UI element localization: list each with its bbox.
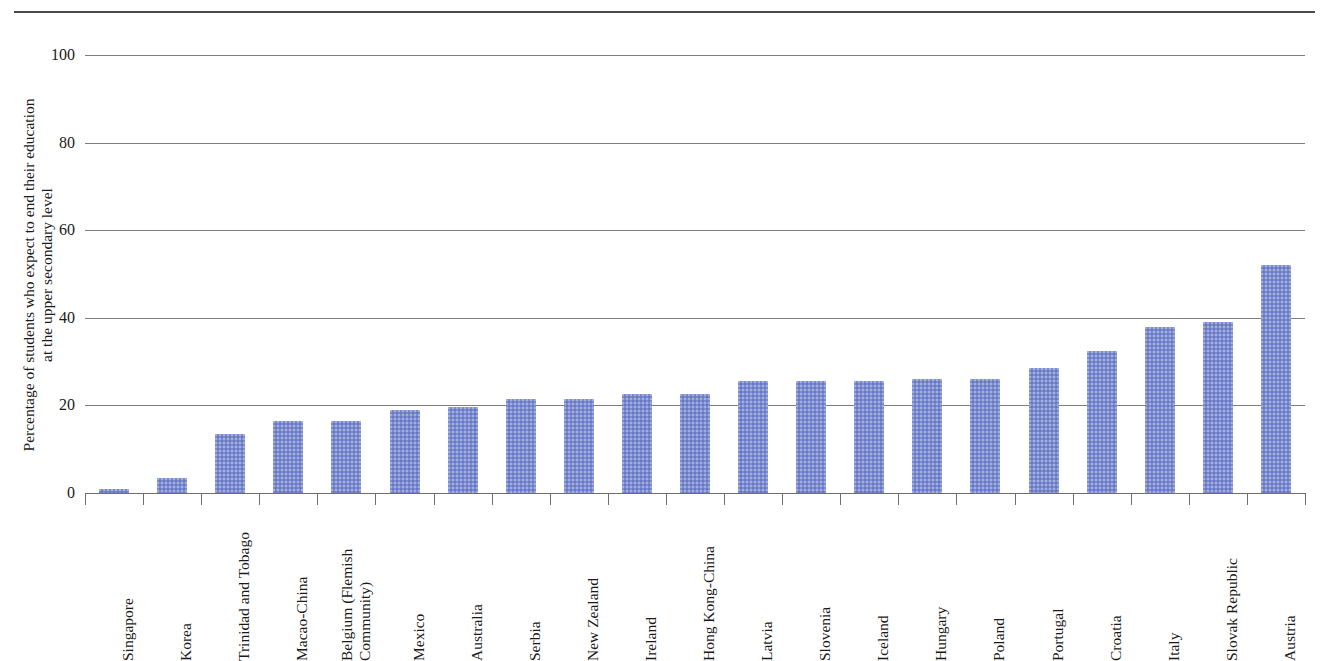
header-divider-rule [14, 11, 1315, 13]
x-axis-label-line: Iceland [874, 511, 892, 661]
bar [157, 478, 187, 493]
x-axis-label-line: Korea [177, 511, 195, 661]
x-axis-label-line: Hong Kong-China [700, 511, 718, 661]
x-axis-label-line: Poland [990, 511, 1008, 661]
bar [1261, 265, 1291, 493]
y-tick-label-20: 20 [15, 397, 81, 413]
x-axis-label-line: Singapore [119, 511, 137, 661]
plot-area: 020406080100 [85, 55, 1305, 493]
y-axis-title-line-2: at the upper secondary level [38, 188, 56, 362]
bar [912, 379, 942, 493]
bar [1145, 327, 1175, 493]
y-tick-label-40: 40 [15, 310, 81, 326]
x-axis-label-line: Slovenia [816, 511, 834, 661]
bars [85, 55, 1305, 493]
x-axis-label-line: Portugal [1049, 511, 1067, 661]
bar [331, 421, 361, 493]
x-axis-label-line: Italy [1165, 511, 1183, 661]
x-axis-tick [1305, 493, 1306, 505]
bar [448, 407, 478, 493]
x-axis-label-line: Latvia [758, 511, 776, 661]
x-axis-label-line: Croatia [1107, 511, 1125, 661]
bar [1203, 322, 1233, 493]
x-axis-label-line: Belgium (Flemish [338, 511, 356, 661]
bar [1029, 368, 1059, 493]
bar [854, 381, 884, 493]
x-axis-label-line: Slovak Republic [1223, 511, 1241, 661]
bar [506, 399, 536, 493]
x-axis-label-line: Mexico [410, 511, 428, 661]
y-tick-label-60: 60 [15, 222, 81, 238]
y-tick-label-80: 80 [15, 135, 81, 151]
bar [390, 410, 420, 493]
bar [273, 421, 303, 493]
bar [970, 379, 1000, 493]
bar [796, 381, 826, 493]
bar-chart-figure: Percentage of students who expect to end… [0, 0, 1329, 661]
x-axis-label-line: Serbia [526, 511, 544, 661]
x-axis-label-line: Macao-China [293, 511, 311, 661]
x-axis-label-line: Community) [356, 511, 374, 661]
y-tick-label-100: 100 [15, 47, 81, 63]
y-tick-label-0: 0 [15, 485, 81, 501]
x-axis-label-line: Australia [468, 511, 486, 661]
bar [622, 394, 652, 493]
bar [564, 399, 594, 493]
y-axis-title: Percentage of students who expect to end… [14, 40, 62, 510]
bar [1087, 351, 1117, 493]
bar [738, 381, 768, 493]
x-axis-label-line: Trinidad and Tobago [235, 511, 253, 661]
x-axis-label-line: Hungary [932, 511, 950, 661]
bar [680, 394, 710, 493]
x-axis-label-line: Ireland [642, 511, 660, 661]
x-axis-category-labels: SingaporeKoreaTrinidad and TobagoMacao-C… [85, 493, 1305, 661]
bar [215, 434, 245, 493]
x-axis-label-line: New Zealand [584, 511, 602, 661]
x-axis-label-line: Austria [1281, 511, 1299, 661]
